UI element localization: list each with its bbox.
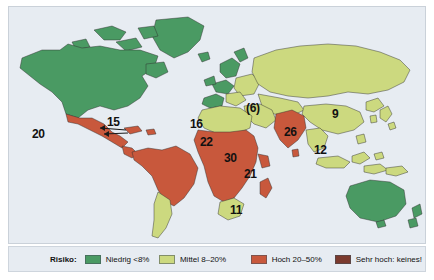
legend-item-hoch: Hoch 20–50% (251, 255, 322, 264)
world-risk-map-figure: .lo{fill:#4a9a63} .md{fill:#ccd97f} .hi{… (0, 0, 434, 280)
map-label-north-africa: 16 (190, 118, 203, 130)
map-label-middle-east: (6) (246, 102, 260, 114)
map-label-southeast-asia: 12 (314, 144, 327, 156)
legend-label-sehr-hoch: Sehr hoch: keines! (356, 255, 422, 264)
map-label-southern-africa: 11 (230, 204, 242, 216)
legend: Risiko: Niedrig <8% Mittel 8–20% Hoch 20… (8, 246, 426, 272)
legend-item-sehr-hoch: Sehr hoch: keines! (335, 255, 422, 264)
legend-swatch-hoch (251, 255, 267, 264)
map-label-central-america: 20 (32, 128, 45, 140)
legend-title: Risiko: (50, 255, 77, 264)
map-label-china: 9 (332, 108, 338, 120)
map-label-west-africa: 22 (200, 136, 213, 148)
legend-swatch-mittel (159, 255, 175, 264)
world-map-graphic: .lo{fill:#4a9a63} .md{fill:#ccd97f} .hi{… (8, 6, 426, 244)
legend-swatch-sehr-hoch (335, 255, 351, 264)
map-label-east-africa: 21 (244, 168, 257, 180)
legend-item-niedrig: Niedrig <8% (85, 255, 150, 264)
legend-label-hoch: Hoch 20–50% (272, 255, 322, 264)
map-label-central-africa: 30 (224, 152, 237, 164)
map-panel: .lo{fill:#4a9a63} .md{fill:#ccd97f} .hi{… (8, 6, 426, 244)
legend-label-niedrig: Niedrig <8% (106, 255, 150, 264)
legend-label-mittel: Mittel 8–20% (180, 255, 226, 264)
map-label-india: 26 (284, 126, 297, 138)
map-label-caribbean: 15 (107, 116, 120, 128)
legend-swatch-niedrig (85, 255, 101, 264)
legend-item-mittel: Mittel 8–20% (159, 255, 226, 264)
